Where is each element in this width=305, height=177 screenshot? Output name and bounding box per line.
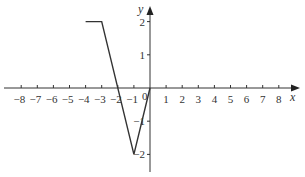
x-tick-label: 7 [260,93,266,105]
x-tick-label: −7 [30,93,42,105]
x-tick-label: 6 [244,93,250,105]
x-tick-label: 8 [276,93,282,105]
y-tick-label: 1 [140,49,146,61]
x-tick-label: 2 [179,93,185,105]
x-tick-label: −8 [13,93,25,105]
y-tick-label: 2 [140,16,146,28]
x-tick-label: 5 [228,93,234,105]
x-tick-label: −4 [78,93,90,105]
x-tick-label: −3 [94,93,106,105]
x-tick-label: 3 [196,93,202,105]
x-tick-label: 4 [212,93,218,105]
y-axis-label: y [137,2,144,16]
x-axis-label: x [289,90,296,104]
x-tick-label: 1 [163,93,169,105]
chart-canvas: −8−7−6−5−4−3−2−112345678 21−1−2 x y 0 [0,0,305,177]
y-axis-arrow-icon [147,6,154,15]
x-tick-label: −1 [126,93,138,105]
x-tick-label: −6 [46,93,58,105]
x-tick-label: −5 [62,93,74,105]
